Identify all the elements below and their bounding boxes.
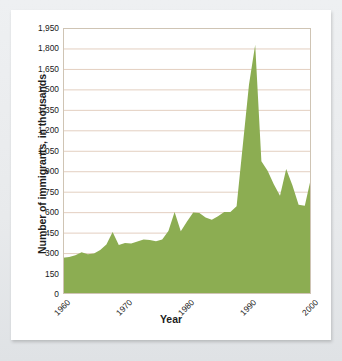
y-tick-label: 1,200 bbox=[38, 125, 59, 135]
y-tick-label: 750 bbox=[45, 187, 59, 197]
chart-svg bbox=[63, 28, 311, 294]
y-tick-label: 1,050 bbox=[38, 146, 59, 156]
y-tick-label: 1,800 bbox=[38, 43, 59, 53]
y-tick-label: 900 bbox=[45, 166, 59, 176]
plot-canvas bbox=[63, 28, 311, 294]
y-tick-label: 1,350 bbox=[38, 105, 59, 115]
y-tick-label: 1,950 bbox=[38, 23, 59, 33]
y-tick-label: 1,650 bbox=[38, 64, 59, 74]
screenshot-page: Number of immigrants, in thousands Year … bbox=[0, 0, 342, 361]
y-tick-label: 1,500 bbox=[38, 84, 59, 94]
chart-card: Number of immigrants, in thousands Year … bbox=[11, 10, 331, 340]
immigration-area-chart: Number of immigrants, in thousands Year … bbox=[11, 10, 331, 340]
plot-area: 01503004506007509001,0501,2001,3501,5001… bbox=[63, 28, 311, 294]
y-tick-label: 300 bbox=[45, 248, 59, 258]
y-tick-label: 0 bbox=[54, 289, 59, 299]
y-tick-label: 150 bbox=[45, 269, 59, 279]
y-tick-label: 600 bbox=[45, 207, 59, 217]
y-tick-label: 450 bbox=[45, 228, 59, 238]
area-series-immigrants bbox=[63, 45, 311, 294]
